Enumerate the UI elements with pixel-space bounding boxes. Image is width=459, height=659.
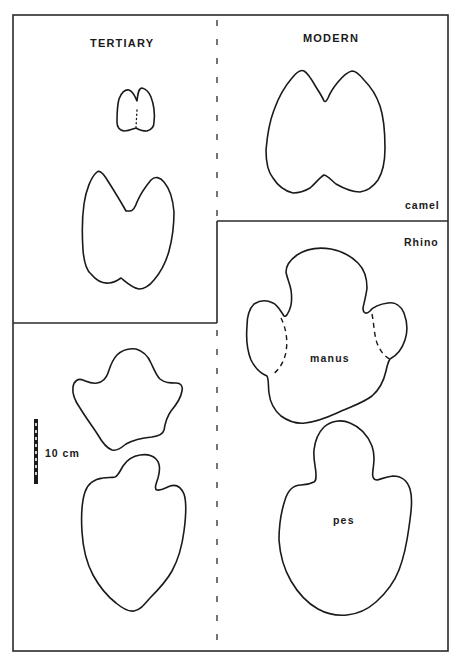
figure-canvas: [0, 0, 459, 659]
tertiary-small-footprint: [117, 88, 154, 131]
tertiary-bottom-upper-footprint: [73, 349, 182, 450]
camel-footprint: [266, 70, 385, 193]
outer-frame: [13, 15, 448, 651]
tertiary-large-footprint: [82, 171, 174, 289]
rhino-manus-footprint: [247, 248, 407, 423]
scale-bar-label: 10 cm: [45, 448, 80, 459]
part-label-pes: pes: [333, 515, 355, 526]
footprint-comparison-figure: TERTIARY MODERN camel Rhino manus pes 10…: [0, 0, 459, 659]
section-label-modern: MODERN: [303, 33, 359, 44]
species-label-rhino: Rhino: [404, 237, 439, 248]
part-label-manus: manus: [310, 353, 350, 364]
tertiary-bottom-lower-footprint: [82, 455, 186, 612]
section-label-tertiary: TERTIARY: [90, 38, 154, 49]
scale-bar: [34, 419, 38, 484]
species-label-camel: camel: [405, 200, 440, 211]
